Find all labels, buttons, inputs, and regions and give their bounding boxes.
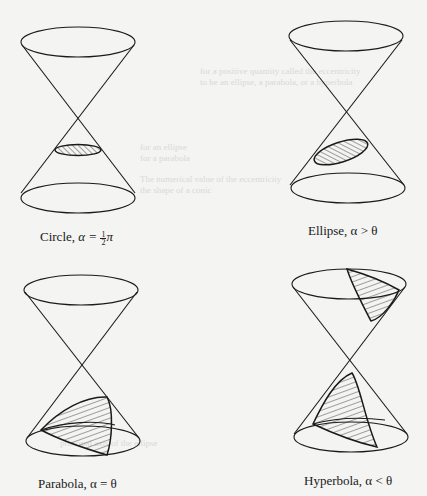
- caption-ellipse: Ellipse, α > θ: [308, 223, 377, 239]
- circle-section: [55, 145, 101, 156]
- caption-hyperbola: Hyperbola, α < θ: [304, 473, 392, 489]
- hyperbola-panel: [292, 269, 408, 452]
- hyperbola-upper-branch: [347, 269, 399, 321]
- caption-circle: Circle, α = 12π: [40, 229, 113, 246]
- caption-pi: π: [106, 229, 113, 244]
- caption-relation: α =: [78, 229, 97, 244]
- ellipse-panel: [289, 21, 405, 203]
- upper-nappe-rim: [21, 27, 135, 57]
- hyperbola-lower-branch: [313, 373, 377, 447]
- circle-panel: [21, 27, 135, 213]
- lower-nappe-rim: [291, 173, 405, 203]
- caption-parabola: Parabola, α = θ: [38, 476, 117, 492]
- upper-nappe-rim: [24, 275, 138, 305]
- parabola-panel: [24, 275, 140, 456]
- upper-nappe-rim: [289, 21, 403, 51]
- caption-name: Circle: [40, 229, 72, 244]
- lower-nappe-rim: [21, 183, 135, 213]
- conic-sections-figure: [0, 0, 427, 496]
- ellipse-section: [311, 134, 370, 170]
